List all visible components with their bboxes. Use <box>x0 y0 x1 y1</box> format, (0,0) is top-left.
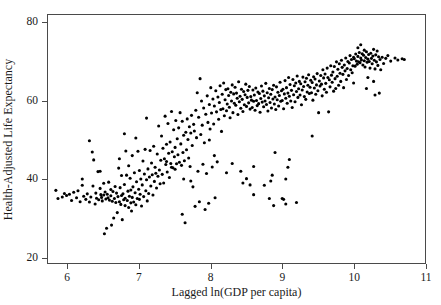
x-tick-label: 11 <box>420 272 431 284</box>
y-tick-mark <box>42 179 47 180</box>
y-axis-title-text: Health-Adjusted Life Expectancy <box>2 58 17 219</box>
plot-area <box>47 14 426 264</box>
x-tick-mark <box>282 264 283 269</box>
y-tick-mark <box>42 258 47 259</box>
y-tick-label: 80 <box>27 16 39 28</box>
x-tick-mark <box>211 264 212 269</box>
y-tick-mark <box>42 22 47 23</box>
x-tick-label: 9 <box>280 272 286 284</box>
scatter-plot-figure: Health-Adjusted Life Expectancy 67891011… <box>0 0 441 305</box>
y-tick-label: 20 <box>27 252 39 264</box>
x-axis-title: Lagged ln(GDP per capita) <box>47 286 426 298</box>
scatter-points-svg <box>48 15 425 263</box>
y-tick-mark <box>42 101 47 102</box>
x-tick-label: 7 <box>136 272 142 284</box>
x-tick-mark <box>426 264 427 269</box>
x-tick-label: 10 <box>348 272 360 284</box>
y-tick-label: 40 <box>27 174 39 186</box>
y-tick-label: 60 <box>27 95 39 107</box>
scatter-points-layer <box>48 15 425 263</box>
x-tick-label: 8 <box>208 272 214 284</box>
x-tick-mark <box>139 264 140 269</box>
x-tick-label: 6 <box>64 272 70 284</box>
x-tick-mark <box>67 264 68 269</box>
x-tick-mark <box>354 264 355 269</box>
y-axis-title: Health-Adjusted Life Expectancy <box>2 14 16 264</box>
